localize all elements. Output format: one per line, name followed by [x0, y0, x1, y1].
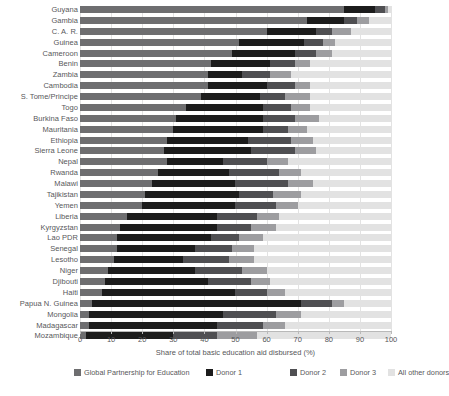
legend-item[interactable]: Donor 3	[340, 368, 376, 378]
y-axis-label: Cameroon	[0, 50, 78, 58]
bar-segment	[105, 278, 208, 285]
bar-segment	[254, 245, 391, 252]
y-axis-label: C. A. R.	[0, 28, 78, 36]
legend-item[interactable]: All other donors	[388, 368, 449, 378]
bar-segment	[92, 300, 300, 307]
bar-segment	[239, 39, 304, 46]
bar-row	[80, 71, 391, 78]
bar-segment	[351, 28, 391, 35]
bar-segment	[242, 71, 270, 78]
y-axis-label: Nepal	[0, 158, 78, 166]
bar-segment	[267, 289, 286, 296]
y-axis-label: Senegal	[0, 245, 78, 253]
bar-segment	[291, 104, 310, 111]
bar-segment	[251, 224, 276, 231]
legend-label: All other donors	[398, 368, 449, 377]
y-axis-label: Cambodia	[0, 82, 78, 90]
legend-item[interactable]: Donor 2	[290, 368, 326, 378]
bar-segment	[80, 17, 307, 24]
y-axis-label: Burkina Faso	[0, 115, 78, 123]
x-tick	[173, 331, 174, 334]
bar-segment	[285, 93, 310, 100]
bar-segment	[301, 169, 391, 176]
bar-segment	[164, 147, 251, 154]
x-tick	[80, 331, 81, 334]
x-tick-label: 20	[138, 336, 146, 344]
bar-segment	[270, 278, 391, 285]
legend-item[interactable]: Donor 1	[206, 368, 242, 378]
bar-segment	[254, 256, 391, 263]
y-axis-label: Benin	[0, 60, 78, 68]
bar-segment	[239, 234, 264, 241]
bar-row	[80, 311, 391, 318]
y-axis-label: Gambia	[0, 17, 78, 25]
bar-segment	[80, 158, 167, 165]
bar-segment	[242, 267, 267, 274]
bar-segment	[208, 82, 267, 89]
x-tick	[142, 331, 143, 334]
bar-segment	[316, 28, 332, 35]
y-axis-label: Malawi	[0, 180, 78, 188]
bar-segment	[80, 169, 158, 176]
bar-segment	[307, 126, 391, 133]
bar-segment	[186, 104, 264, 111]
y-axis-label: Niger	[0, 267, 78, 275]
bar-segment	[295, 50, 317, 57]
bar-row	[80, 202, 391, 209]
bar-row	[80, 322, 391, 329]
bar-segment	[80, 104, 186, 111]
bar-segment	[369, 17, 391, 24]
bar-segment	[80, 213, 127, 220]
y-axis-label: Rwanda	[0, 169, 78, 177]
bar-segment	[260, 93, 285, 100]
bar-segment	[319, 115, 391, 122]
bar-segment	[235, 202, 275, 209]
bar-segment	[80, 147, 164, 154]
bar-row	[80, 50, 391, 57]
bar-segment	[344, 6, 375, 13]
bar-segment	[301, 191, 391, 198]
x-tick-label: 80	[325, 336, 333, 344]
legend-swatch	[340, 369, 347, 376]
bar-row	[80, 115, 391, 122]
bar-segment	[276, 311, 301, 318]
bar-segment	[208, 278, 252, 285]
bar-row	[80, 180, 391, 187]
bar-segment	[80, 311, 89, 318]
bar-segment	[304, 39, 323, 46]
bar-segment	[80, 28, 267, 35]
bar-segment	[288, 180, 313, 187]
bar-segment	[307, 17, 344, 24]
legend-label: Global Partnership for Education	[84, 368, 189, 377]
bar-segment	[114, 256, 182, 263]
y-axis-label: Mongolia	[0, 311, 78, 319]
bar-segment	[301, 300, 332, 307]
chart-legend: Global Partnership for EducationDonor 1D…	[0, 368, 429, 382]
legend-swatch	[74, 369, 81, 376]
y-axis-label: Madagascar	[0, 322, 78, 330]
legend-item[interactable]: Global Partnership for Education	[74, 368, 189, 378]
x-tick-label: 70	[294, 336, 302, 344]
y-axis-label: Liberia	[0, 213, 78, 221]
bar-segment	[201, 93, 260, 100]
x-tick	[204, 331, 205, 334]
y-axis-label: Lao PDR	[0, 234, 78, 242]
bar-segment	[117, 245, 195, 252]
bar-segment	[229, 169, 279, 176]
bar-row	[80, 256, 391, 263]
bar-segment	[211, 234, 239, 241]
bar-row	[80, 126, 391, 133]
bar-segment	[263, 115, 294, 122]
bar-segment	[80, 93, 201, 100]
gridline-100	[391, 6, 392, 331]
y-axis-label: Papua N. Guinea	[0, 300, 78, 308]
bar-segment	[288, 126, 307, 133]
bar-segment	[310, 60, 391, 67]
bar-segment	[80, 82, 208, 89]
bar-segment	[267, 82, 295, 89]
y-axis-label: Ethiopia	[0, 137, 78, 145]
bar-segment	[313, 180, 391, 187]
bar-segment	[80, 115, 176, 122]
bar-row	[80, 267, 391, 274]
bar-segment	[80, 60, 211, 67]
